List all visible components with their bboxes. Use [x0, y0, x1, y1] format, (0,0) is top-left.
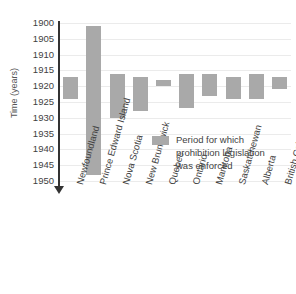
y-tick-label: 1910: [20, 50, 54, 60]
y-tick-label: 1945: [20, 160, 54, 170]
y-tick-label: 1900: [20, 18, 54, 28]
legend-label-line: Period for which: [176, 133, 294, 146]
y-axis-tick-labels: 1900190519101915192019251930193519401945…: [18, 0, 54, 294]
y-tick-label: 1915: [20, 65, 54, 75]
y-tick-label: 1905: [20, 34, 54, 44]
y-tick-label: 1935: [20, 129, 54, 139]
y-tick-label: 1925: [20, 97, 54, 107]
bar-quebec: [156, 80, 171, 86]
bar-ontario: [179, 74, 194, 109]
bar-british-columbia: [272, 77, 287, 90]
bar-manitoba: [202, 74, 217, 96]
y-tick-label: 1950: [20, 176, 54, 186]
legend-label: Period for whichprohibition legislationw…: [176, 133, 294, 172]
bar-newfoundland: [63, 77, 78, 99]
y-tick-label: 1940: [20, 144, 54, 154]
legend-color-swatch: [152, 136, 169, 145]
y-tick-label: 1920: [20, 81, 54, 91]
y-tick-label: 1930: [20, 113, 54, 123]
bar-alberta: [249, 74, 264, 99]
gridline: [59, 23, 291, 24]
x-axis-tick-labels: NewfoundlandPrince Edward IslandNova Sco…: [59, 183, 291, 294]
y-axis-line: [58, 21, 60, 189]
legend-label-line: was enforced: [176, 159, 294, 172]
bar-new-brunswick: [133, 77, 148, 112]
bar-saskatchewan: [226, 77, 241, 99]
prohibition-period-chart: Time (years) 190019051910191519201925193…: [0, 0, 296, 294]
legend-label-line: prohibition legislation: [176, 146, 294, 159]
